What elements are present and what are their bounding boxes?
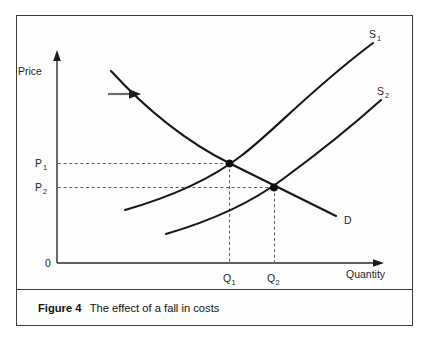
equilibrium-point-1 [226,160,233,167]
caption-figure-number: Figure 4 [38,302,82,314]
q2-tick-label: Q 2 [267,272,280,287]
supply-1-base: S [369,28,376,40]
p1-subscript: 1 [43,163,47,172]
p2-base: P [35,181,42,193]
demand-label: D [344,214,352,226]
equilibrium-2-guides [58,188,275,263]
figure-border-frame: Price Quantity 0 [16,15,413,326]
q1-subscript: 1 [232,278,236,287]
caption-figure-title: The effect of a fall in costs [90,302,220,314]
figure-container: Price Quantity 0 [0,0,431,345]
q2-base: Q [267,272,275,284]
p1-base: P [35,157,42,169]
caption-bar: Figure 4 The effect of a fall in costs [17,290,412,325]
economics-supply-demand-chart: Price Quantity 0 [17,16,412,303]
y-axis-arrowhead [53,50,61,61]
q2-subscript: 2 [276,278,280,287]
y-axis-label: Price [18,65,42,77]
supply-2-base: S [377,85,384,97]
x-axis [57,259,384,267]
p2-subscript: 2 [43,187,47,196]
equilibrium-1-guides [58,164,230,263]
supply-curve-1 [125,43,373,210]
supply-2-label: S 2 [377,85,389,100]
demand-curve [111,71,336,216]
p1-tick-label: P 1 [35,157,47,172]
supply-1-label: S 1 [369,28,381,43]
equilibrium-point-2 [270,184,277,191]
shift-arrow-head [129,89,141,99]
figure-caption: Figure 4 The effect of a fall in costs [38,302,219,314]
supply-2-subscript: 2 [385,91,389,100]
supply-1-subscript: 1 [377,34,381,43]
q1-base: Q [223,272,231,284]
origin-label: 0 [45,257,51,269]
p2-tick-label: P 2 [35,181,47,196]
y-axis [53,50,61,263]
x-axis-arrowhead [373,259,384,267]
x-axis-label: Quantity [346,268,386,280]
q1-tick-label: Q 1 [223,272,236,287]
